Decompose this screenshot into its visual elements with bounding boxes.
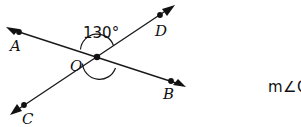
arrowhead-b-icon [173, 79, 186, 87]
point-a-dot [16, 29, 22, 35]
angle-arc-lower [83, 64, 116, 80]
point-d-label: D [154, 22, 167, 40]
angle-measure-label: 130° [83, 24, 119, 42]
angle-question-prompt: m∠C [268, 78, 301, 96]
line-CD [10, 5, 175, 115]
point-d-dot [157, 12, 163, 18]
geometry-figure: A B C D O 130° m∠C [0, 0, 301, 127]
point-b-dot [168, 78, 174, 84]
point-c-label: C [22, 110, 34, 127]
geometry-diagram: A B C D O 130° [0, 0, 301, 127]
point-a-label: A [8, 37, 21, 55]
vertex-point-o [94, 54, 100, 60]
point-c-dot [21, 102, 27, 108]
arrowhead-c-icon [10, 104, 22, 115]
arrowhead-d-icon [162, 5, 175, 16]
point-b-label: B [162, 85, 174, 103]
vertex-o-label: O [70, 57, 82, 75]
